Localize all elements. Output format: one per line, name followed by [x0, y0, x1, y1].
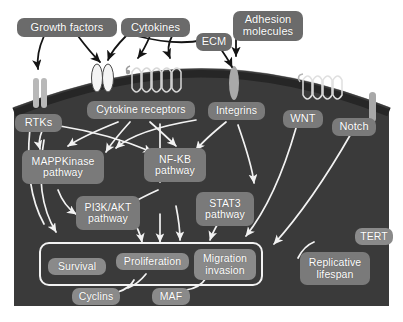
replicative-line1: Replicative — [309, 257, 361, 268]
label-survival[interactable]: Survival — [48, 258, 106, 275]
integrin-receptor-glyph — [229, 66, 239, 100]
label-tert[interactable]: TERT — [355, 228, 393, 245]
nfkb-line2: pathway — [155, 165, 195, 176]
label-cytokines[interactable]: Cytokines — [121, 18, 190, 37]
label-wnt[interactable]: WNT — [283, 110, 323, 128]
label-ecm[interactable]: ECM — [196, 33, 232, 51]
label-cyclins[interactable]: Cyclins — [72, 288, 120, 305]
arrow-gf-to-cytokine-receptor — [78, 36, 100, 62]
arrow-gf-to-rtk — [38, 36, 44, 69]
migration-line1: Migration — [203, 253, 247, 264]
label-maf[interactable]: MAF — [152, 288, 190, 305]
label-pi3k-akt-pathway[interactable]: PI3K/AKT pathway — [76, 196, 140, 230]
label-rtks[interactable]: RTKs — [15, 114, 62, 132]
adhesion-molecules-line2: molecules — [243, 26, 293, 38]
label-replicative-lifespan[interactable]: Replicative lifespan — [300, 252, 370, 285]
label-nfkb-pathway[interactable]: NF-KB pathway — [144, 148, 206, 182]
label-integrins[interactable]: Integrins — [208, 102, 265, 120]
label-mappkinase-pathway[interactable]: MAPPKinase pathway — [22, 150, 104, 184]
label-notch[interactable]: Notch — [332, 118, 376, 136]
stat3-line2: pathway — [205, 209, 245, 220]
arrow-cytokines-to-receptor-dimer — [108, 36, 126, 60]
migration-line2: invasion — [205, 265, 244, 276]
label-stat3-pathway[interactable]: STAT3 pathway — [196, 192, 254, 226]
arrow-cytokines-to-7tm-b — [168, 36, 172, 58]
mappkinase-line2: pathway — [43, 167, 83, 178]
label-growth-factors[interactable]: Growth factors — [17, 18, 117, 37]
label-cytokine-receptors[interactable]: Cytokine receptors — [87, 101, 195, 119]
label-adhesion-molecules[interactable]: Adhesion molecules — [233, 11, 303, 41]
signalling-pathway-figure: Growth factors Cytokines ECM Adhesion mo… — [0, 0, 403, 322]
label-migration-invasion[interactable]: Migration invasion — [194, 249, 256, 280]
replicative-line2: lifespan — [317, 269, 354, 280]
pi3k-line2: pathway — [88, 213, 128, 224]
label-proliferation[interactable]: Proliferation — [116, 253, 189, 270]
